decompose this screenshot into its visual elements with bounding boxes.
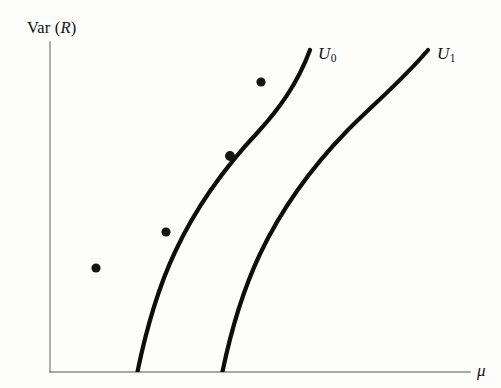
curve-label-u1: U1 (437, 45, 455, 62)
curve-label-u1-letter: U (437, 44, 449, 63)
curve-u1 (222, 50, 428, 374)
curve-label-u1-subscript: 1 (450, 52, 456, 64)
x-axis-label: μ (477, 362, 486, 379)
curve-label-u0-subscript: 0 (331, 52, 337, 64)
y-axis-label-suffix: ) (71, 18, 77, 37)
data-point-1 (91, 263, 100, 272)
data-point-4 (256, 77, 265, 86)
y-axis-label-prefix: Var ( (27, 18, 61, 37)
data-point-3 (225, 151, 235, 161)
plot-canvas (0, 0, 501, 388)
curve-label-u0: U0 (318, 45, 336, 62)
y-axis-label: Var (R) (27, 20, 77, 37)
data-point-2 (161, 227, 170, 236)
curve-label-u0-letter: U (318, 44, 330, 63)
y-axis-label-variable: R (61, 18, 71, 37)
indifference-curve-figure: Var (R) μ U0 U1 (0, 0, 501, 388)
